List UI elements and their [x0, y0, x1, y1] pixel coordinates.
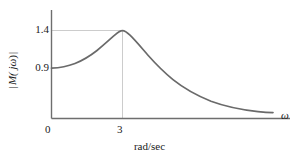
frequency-response-figure: 1.4 0.9 0 3 |M( jω)| rad/sec ω: [0, 0, 299, 163]
magnitude-response-curve: [52, 31, 274, 113]
y-axis-label-bar-right: |: [6, 51, 18, 55]
y-axis-label-magnitude: M( j: [6, 66, 18, 85]
x-axis-label: rad/sec: [0, 140, 299, 152]
y-tick-label-1-4: 1.4: [35, 24, 49, 35]
y-tick-label-0-9: 0.9: [35, 62, 49, 73]
x-tick-label-3: 3: [117, 124, 123, 135]
omega-axis-symbol: ω: [281, 109, 289, 121]
y-axis-label-bar-left: |: [6, 85, 18, 89]
x-tick-label-0: 0: [45, 124, 51, 135]
y-axis-label-paren: ): [6, 55, 18, 59]
omega-symbol-ylabel: ω: [6, 59, 18, 67]
y-axis-label: |M( jω)|: [6, 38, 18, 102]
